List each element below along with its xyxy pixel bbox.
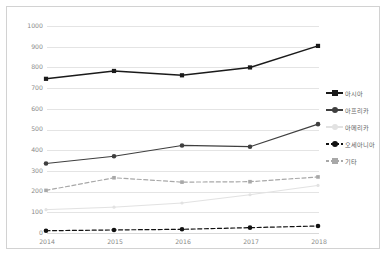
legend-item-0[interactable]: 아시아 [326, 86, 384, 100]
legend-item-2[interactable]: 아메리카 [326, 120, 384, 134]
legend-label: 기타 [343, 157, 357, 166]
y-axis-tick-label: 800 [9, 64, 43, 70]
gridline [47, 192, 319, 193]
legend-label: 오세아니아 [343, 140, 375, 149]
gridline [47, 233, 319, 234]
x-axis-tick-label: 2016 [163, 239, 203, 245]
gridline [47, 130, 319, 131]
legend-label: 아메리카 [343, 123, 369, 132]
legend-label: 아시아 [343, 89, 363, 98]
y-axis-tick-label: 100 [9, 209, 43, 215]
y-axis-tick-label: 500 [9, 126, 43, 132]
gridline [47, 171, 319, 172]
x-axis-tick-label: 2017 [231, 239, 271, 245]
y-axis-tick-label: 0 [9, 230, 43, 236]
legend-item-4[interactable]: 기타 [326, 154, 384, 168]
y-axis-tick-label: 1000 [9, 23, 43, 29]
legend-label: 아프리카 [343, 106, 369, 115]
x-axis-tick-label: 2018 [299, 239, 339, 245]
y-axis-tick-label: 200 [9, 188, 43, 194]
legend-item-1[interactable]: 아프리카 [326, 103, 384, 117]
legend-swatch-icon [326, 156, 343, 166]
gridline [47, 212, 319, 213]
y-axis-tick-label: 400 [9, 147, 43, 153]
gridline [47, 88, 319, 89]
y-axis-tick-label: 900 [9, 44, 43, 50]
legend-item-3[interactable]: 오세아니아 [326, 137, 384, 151]
y-axis-tick-label: 300 [9, 168, 43, 174]
plot-area [47, 26, 319, 239]
x-axis-tick-label: 2015 [95, 239, 135, 245]
x-axis-tick-label: 2014 [27, 239, 67, 245]
gridline [47, 26, 319, 27]
legend-swatch-icon [326, 122, 343, 132]
y-axis-tick-label: 700 [9, 85, 43, 91]
legend-swatch-icon [326, 139, 343, 149]
chart-legend: 아시아아프리카아메리카오세아니아기타 [326, 86, 384, 171]
gridline [47, 67, 319, 68]
y-axis-tick-label: 600 [9, 106, 43, 112]
gridline [47, 47, 319, 48]
chart-frame: 0100200300400500600700800900100020142015… [6, 6, 380, 249]
legend-swatch-icon [326, 105, 343, 115]
legend-swatch-icon [326, 88, 343, 98]
gridline [47, 109, 319, 110]
gridline [47, 150, 319, 151]
